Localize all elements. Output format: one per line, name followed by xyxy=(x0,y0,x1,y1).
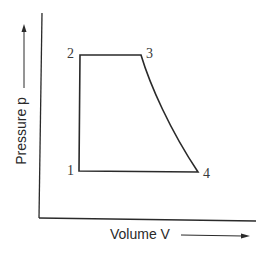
x-axis xyxy=(39,218,256,221)
pv-diagram: Pressure p Volume V 2 3 1 4 xyxy=(0,0,262,259)
y-axis-label: Pressure p xyxy=(14,97,28,165)
y-label-arrow-icon xyxy=(22,24,27,32)
point-1-label: 1 xyxy=(67,164,74,178)
y-axis xyxy=(39,13,42,218)
cycle-path xyxy=(79,55,198,172)
point-2-label: 2 xyxy=(67,47,74,61)
diagram-graphics xyxy=(0,0,262,259)
point-4-label: 4 xyxy=(203,167,210,181)
x-label-arrow-icon xyxy=(241,234,250,239)
x-label-arrow-shaft xyxy=(181,235,243,236)
point-3-label: 3 xyxy=(146,47,153,61)
x-axis-label: Volume V xyxy=(110,227,170,241)
